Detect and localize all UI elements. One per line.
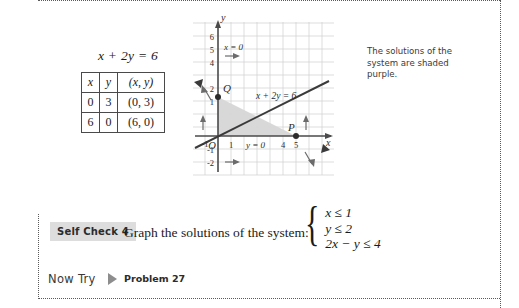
note-line-1: The solutions of the [367,46,487,58]
table-header-pair: (x, y) [118,73,165,93]
line-equation-label: x + 2y = 6 [255,91,297,101]
svg-text:4: 4 [210,58,215,68]
point-q-label: Q [223,82,231,94]
y-axis-label: y [220,12,226,23]
table-cell-pair: (6, 0) [118,113,165,133]
bottom-dotted-rule [38,298,500,299]
play-arrow-icon [108,273,117,285]
table-header-y: y [100,73,118,93]
note-line-3: purple. [367,69,487,81]
svg-text:1: 1 [229,140,233,150]
solution-note: The solutions of the system are shaded p… [367,46,487,81]
point-p-label: P [287,121,295,133]
svg-text:4: 4 [281,140,286,150]
table-cell-x: 6 [82,113,100,133]
table-of-values: x y (x, y) 0 3 (0, 3) 6 0 (6, 0) [81,72,165,133]
table-header-row: x y (x, y) [82,73,165,93]
table-row: 6 0 (6, 0) [82,113,165,133]
coordinate-graph: y x 6 5 4 2 1 -1 -2 -1 1 4 5 O Q P [193,12,335,176]
self-check-prompt: Graph the solutions of the system: [124,225,309,241]
textbook-page: x + 2y = 6 x y (x, y) 0 3 (0, 3) 6 0 (6,… [0,0,519,308]
svg-text:5: 5 [294,140,298,150]
svg-text:2: 2 [210,84,214,94]
equation-text: x + 2y = 6 [98,48,158,63]
inequality-2: y ≤ 2 [325,221,381,237]
table-cell-pair: (0, 3) [118,93,165,113]
point-q-marker [215,94,221,100]
left-brace: { [305,200,319,257]
graph-svg: y x 6 5 4 2 1 -1 -2 -1 1 4 5 O Q P [193,12,335,176]
table-cell-y: 0 [100,113,118,133]
point-p-marker [293,133,299,139]
table-cell-x: 0 [82,93,100,113]
inequality-3: 2x − y ≤ 4 [325,236,381,252]
right-dotted-rule [500,0,501,308]
x-axis-label: x [325,137,331,148]
table-header-x: x [82,73,100,93]
line-arrow-left [194,79,203,88]
svg-text:-2: -2 [207,158,214,168]
left-dotted-rule [38,214,39,299]
svg-text:6: 6 [210,32,214,42]
now-try-label: Now Try [48,272,96,286]
note-line-2: system are shaded [367,58,487,70]
now-try-problem[interactable]: Problem 27 [124,273,185,284]
boundary-y-label: y = 0 [245,140,266,150]
origin-label: O [208,140,216,151]
system-of-inequalities: { x ≤ 1 y ≤ 2 2x − y ≤ 4 [305,205,381,252]
top-dotted-rule [38,0,500,1]
svg-text:1: 1 [210,97,214,107]
equation-label: x + 2y = 6 [78,48,178,64]
inequality-1: x ≤ 1 [325,205,381,221]
boundary-x-label: x = 0 [223,42,244,52]
table-cell-y: 3 [100,93,118,113]
inequality-lines: x ≤ 1 y ≤ 2 2x − y ≤ 4 [325,205,381,252]
table-row: 0 3 (0, 3) [82,93,165,113]
svg-text:5: 5 [210,45,214,55]
